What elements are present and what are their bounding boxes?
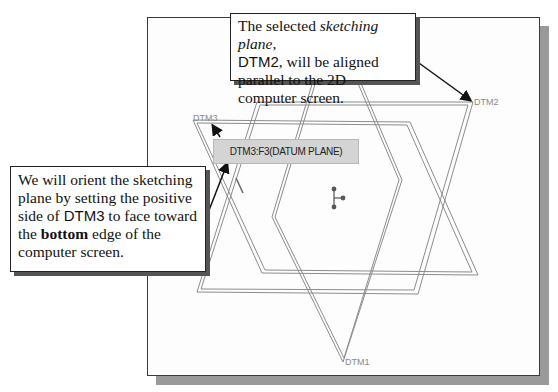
dtm1-label: DTM1 xyxy=(345,357,370,367)
dtm1-plane[interactable] xyxy=(272,81,402,362)
coordinate-triad-icon xyxy=(332,187,345,209)
callout-sketching-plane: The selected sketching plane, DTM2, will… xyxy=(230,13,416,81)
callout-bold-text: bottom xyxy=(41,225,88,242)
callout-text: , xyxy=(272,35,276,52)
callout-plane-name: DTM2 xyxy=(238,53,279,70)
callout-top-arrow-icon xyxy=(412,58,470,100)
callout-orientation: We will orient the sketching plane by se… xyxy=(10,166,206,272)
dtm2-label: DTM2 xyxy=(474,97,499,107)
dtm3-pointer-arrow-icon xyxy=(213,126,220,137)
callout-text: The selected xyxy=(238,17,320,34)
cursor-tick-icon xyxy=(236,178,243,193)
datum-plane-tooltip: DTM3:F3(DATUM PLANE) xyxy=(213,139,359,164)
callout-plane-name: DTM3 xyxy=(64,207,105,224)
dtm3-label: DTM3 xyxy=(193,113,218,123)
